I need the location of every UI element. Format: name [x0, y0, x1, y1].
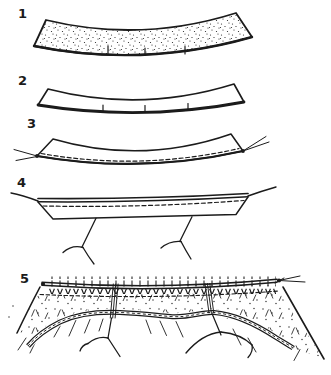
illustration-page: 1 2 3 4 5 — [0, 0, 331, 375]
left-pedicle — [80, 284, 120, 357]
suture-line — [40, 276, 305, 297]
step-3-drawing — [14, 134, 269, 164]
left-knot — [41, 282, 45, 286]
step-2-drawing — [38, 84, 244, 113]
step-1-drawing — [34, 13, 252, 56]
surgical-steps-diagram — [0, 0, 331, 375]
left-suture-knot — [35, 154, 39, 158]
stippled-tissue-region — [18, 293, 324, 359]
step-4-drawing — [11, 187, 276, 264]
step-5-drawing — [8, 276, 324, 361]
right-suture-knot — [241, 149, 245, 153]
